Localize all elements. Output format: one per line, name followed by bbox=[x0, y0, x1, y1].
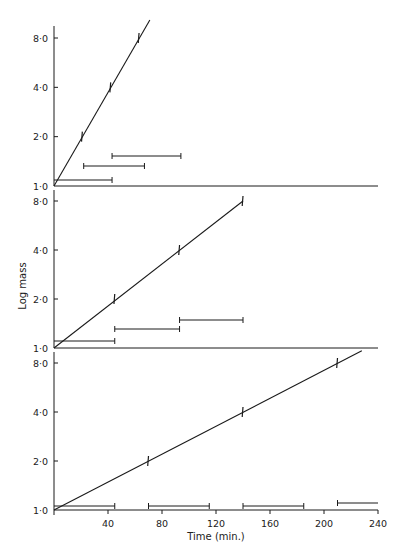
y-tick-label: 8·0 bbox=[33, 33, 48, 44]
x-tick-label: 80 bbox=[156, 518, 168, 529]
panel-1: 1·02·04·08·0 bbox=[33, 20, 378, 192]
y-tick-label: 8·0 bbox=[33, 196, 48, 207]
panels-group: 1·02·04·08·01·02·04·08·01·02·04·08·0 bbox=[33, 20, 378, 516]
x-tick-label: 160 bbox=[261, 518, 279, 529]
x-tick-label: 240 bbox=[369, 518, 387, 529]
y-tick-label: 4·0 bbox=[33, 245, 48, 256]
x-axis-ticks: 4080120160200240 bbox=[54, 510, 387, 529]
growth-line bbox=[54, 20, 150, 186]
x-tick-label: 40 bbox=[102, 518, 114, 529]
data-point-marker bbox=[114, 294, 115, 304]
data-point-marker bbox=[148, 456, 149, 466]
panel-3: 1·02·04·08·0 bbox=[33, 351, 378, 516]
y-axis-label: Log mass bbox=[17, 262, 28, 309]
data-point-marker bbox=[110, 82, 111, 92]
x-axis-label: Time (min.) bbox=[186, 531, 245, 542]
y-tick-label: 2·0 bbox=[33, 456, 48, 467]
y-tick-label: 4·0 bbox=[33, 82, 48, 93]
data-point-marker bbox=[242, 407, 243, 417]
growth-line bbox=[54, 351, 362, 510]
panel-2: 1·02·04·08·0 bbox=[33, 190, 378, 354]
data-point-marker bbox=[138, 33, 139, 43]
data-point-marker bbox=[82, 132, 83, 142]
y-tick-label: 2·0 bbox=[33, 294, 48, 305]
growth-chart-figure: 1·02·04·08·01·02·04·08·01·02·04·08·0 Log… bbox=[0, 0, 403, 557]
data-point-marker bbox=[242, 196, 243, 206]
x-tick-label: 120 bbox=[207, 518, 225, 529]
y-tick-label: 1·0 bbox=[33, 181, 48, 192]
y-tick-label: 1·0 bbox=[33, 343, 48, 354]
data-point-marker bbox=[179, 245, 180, 255]
data-point-marker bbox=[337, 358, 338, 368]
growth-line bbox=[54, 201, 243, 348]
x-tick-label: 200 bbox=[315, 518, 333, 529]
chart-canvas: 1·02·04·08·01·02·04·08·01·02·04·08·0 Log… bbox=[0, 0, 403, 557]
y-tick-label: 4·0 bbox=[33, 407, 48, 418]
y-tick-label: 8·0 bbox=[33, 358, 48, 369]
y-tick-label: 1·0 bbox=[33, 505, 48, 516]
y-tick-label: 2·0 bbox=[33, 131, 48, 142]
